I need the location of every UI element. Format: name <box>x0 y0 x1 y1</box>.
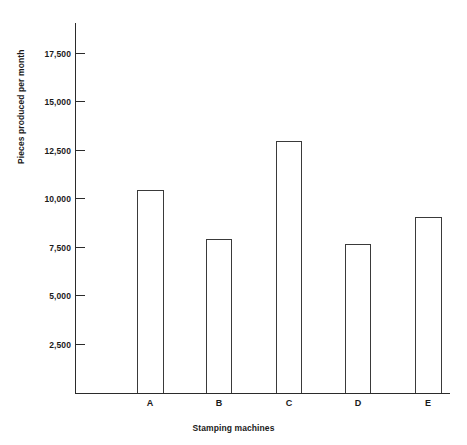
x-category-label-b: B <box>199 398 239 408</box>
bar-a <box>137 190 164 393</box>
y-tick-label-5000: 5,000 <box>11 291 71 301</box>
y-axis-title: Pieces produced per month <box>15 4 27 164</box>
y-tick-label-12500: 12,500 <box>11 146 71 156</box>
y-tick-15000 <box>76 101 85 102</box>
y-tick-label-7500: 7,500 <box>11 243 71 253</box>
y-tick-2500 <box>76 344 85 345</box>
y-tick-label-10000: 10,000 <box>11 194 71 204</box>
x-axis-line <box>75 393 450 394</box>
bar-c <box>276 141 302 393</box>
y-tick-12500 <box>76 150 85 151</box>
bar-d <box>345 244 371 393</box>
x-category-label-c: C <box>269 398 309 408</box>
y-tick-label-15000: 15,000 <box>11 97 71 107</box>
y-tick-label-2500: 2,500 <box>11 340 71 350</box>
x-category-label-a: A <box>130 398 170 408</box>
y-tick-10000 <box>76 198 85 199</box>
bar-e <box>415 217 442 393</box>
bar-chart: Pieces produced per month 2,500 5,000 7,… <box>0 0 467 445</box>
x-axis-title: Stamping machines <box>0 423 467 433</box>
x-category-label-e: E <box>408 398 448 408</box>
x-category-label-d: D <box>338 398 378 408</box>
y-tick-17500 <box>76 53 85 54</box>
y-axis-line <box>75 23 76 394</box>
bar-b <box>206 239 232 393</box>
y-tick-5000 <box>76 295 85 296</box>
y-tick-label-17500: 17,500 <box>11 49 71 59</box>
y-tick-7500 <box>76 247 85 248</box>
